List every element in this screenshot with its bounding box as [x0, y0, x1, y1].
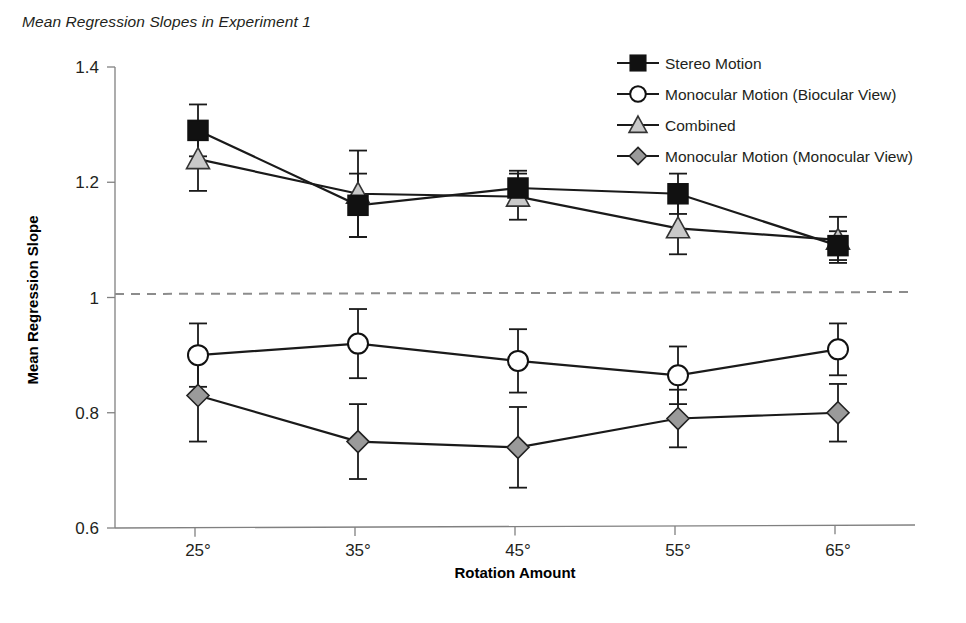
x-tick-label: 35°: [345, 541, 371, 560]
legend-item-4[interactable]: Monocular Motion (Monocular View): [617, 147, 913, 165]
legend-item-1[interactable]: Stereo Motion: [617, 55, 762, 72]
data-point-open-circle: [668, 365, 688, 385]
data-point-open-circle: [828, 339, 848, 359]
legend-label: Monocular Motion (Biocular View): [665, 86, 896, 103]
y-tick-label: 1.2: [75, 173, 99, 192]
data-point-filled-square: [508, 178, 528, 198]
legend-item-2[interactable]: Monocular Motion (Biocular View): [617, 86, 896, 103]
y-tick-label: 1.4: [75, 58, 99, 77]
legend-label: Stereo Motion: [665, 55, 762, 72]
data-point-filled-square: [630, 55, 646, 71]
x-tick-label: 65°: [825, 541, 851, 560]
x-tick-label: 55°: [665, 541, 691, 560]
figure-container: Mean Regression Slopes in Experiment 1 0…: [0, 0, 966, 623]
data-point-filled-square: [828, 236, 848, 256]
data-point-open-circle: [348, 334, 368, 354]
legend-item-3[interactable]: Combined: [617, 116, 736, 134]
chart-canvas: 0.60.811.21.4 25°35°45°55°65° Rotation A…: [0, 0, 966, 623]
data-point-gray-diamond: [629, 147, 646, 164]
y-tick-label: 0.6: [75, 519, 99, 538]
data-point-gray-diamond: [667, 408, 689, 430]
data-point-gray-diamond: [827, 402, 849, 424]
legend-label: Monocular Motion (Monocular View): [665, 148, 913, 165]
x-axis-ticks: 25°35°45°55°65°: [185, 525, 851, 560]
y-tick-label: 1: [90, 289, 99, 308]
data-point-filled-square: [668, 184, 688, 204]
reference-line-1: [115, 292, 915, 294]
data-point-open-circle: [508, 351, 528, 371]
y-axis-title: Mean Regression Slope: [24, 215, 41, 384]
x-tick-label: 25°: [185, 541, 211, 560]
markers-stereo-motion: [188, 120, 848, 255]
data-point-gray-diamond: [187, 384, 209, 406]
legend: Stereo MotionMonocular Motion (Biocular …: [617, 55, 913, 165]
legend-label: Combined: [665, 117, 736, 134]
data-point-gray-diamond: [507, 436, 529, 458]
x-tick-label: 45°: [505, 541, 531, 560]
x-axis-title: Rotation Amount: [454, 564, 575, 581]
data-point-open-circle: [630, 86, 646, 102]
y-axis-ticks: 0.60.811.21.4: [75, 58, 115, 538]
data-point-open-circle: [188, 345, 208, 365]
y-tick-label: 0.8: [75, 404, 99, 423]
data-point-gray-diamond: [347, 431, 369, 453]
data-point-filled-square: [348, 195, 368, 215]
axes-group: [115, 67, 915, 528]
data-point-gray-triangle: [187, 148, 210, 169]
data-point-filled-square: [188, 120, 208, 140]
